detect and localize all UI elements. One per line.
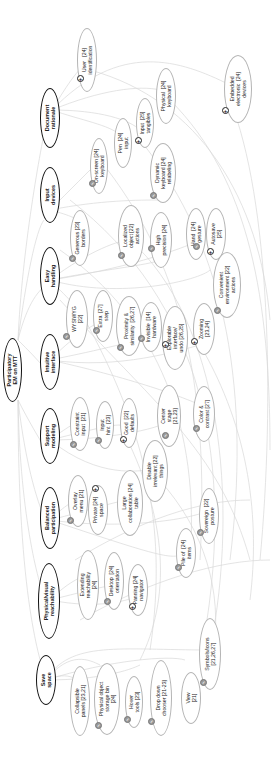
leaf-label: Collapsible panels [23,21]: [74, 685, 86, 718]
leaf-label: Extending reachability [24]: [79, 572, 97, 598]
check-badge-icon: ✓: [124, 716, 131, 723]
plus-badge-icon: +: [120, 436, 127, 443]
leaf-label: Proximity & similarity [26,27]: [123, 307, 135, 346]
category-label: Intuitive interface: [44, 351, 56, 373]
leaf-label: Dynamic keyboard [24] relabeling: [154, 157, 172, 188]
plus-badge-icon: +: [92, 485, 99, 492]
leaf-user-identification[interactable]: User [24] identification: [77, 28, 97, 92]
plus-badge-icon: +: [222, 107, 229, 114]
leaf-high-precision[interactable]: High precision [24]: [150, 212, 172, 268]
leaf-label: Input hint [23]: [99, 415, 111, 435]
leaf-hand-gesture[interactable]: Hand [24] gesture: [186, 208, 206, 260]
leaf-disable-irrelevant-things[interactable]: Disable irrelevant [22] things: [142, 440, 168, 502]
check-badge-icon: ✓: [70, 441, 77, 448]
leaf-embedded-electronic-devices[interactable]: Embedded electronic [24] devices: [224, 55, 252, 123]
leaf-label: Constraint input [21]: [74, 412, 86, 436]
leaf-label: User [24] identification: [81, 46, 93, 75]
check-badge-icon: ✓: [89, 180, 96, 187]
category-label: Balanced participation: [44, 502, 56, 534]
leaf-center-stage[interactable]: Center stage [21,23]: [157, 385, 181, 447]
check-badge-icon: ✓: [148, 245, 155, 252]
category-support-modeling[interactable]: Support modeling: [40, 408, 60, 464]
leaf-label: Private [24] space: [92, 497, 104, 523]
leaf-wysiwyg[interactable]: WYSIWYG [22]: [66, 290, 88, 348]
leaf-label: View [21]: [185, 692, 197, 703]
leaf-label: Hover tools [23]: [128, 691, 140, 712]
category-label: Support modeling: [44, 424, 56, 448]
check-badge-icon: ✓: [93, 327, 100, 334]
check-badge-icon: ✓: [175, 564, 182, 571]
leaf-label: Physical object storage bin [24]: [98, 682, 116, 717]
leaf-label: Overlay menu [21]: [72, 489, 84, 512]
leaf-zooming[interactable]: Zooming [23,24]: [193, 303, 215, 355]
leaf-label: Sovereign [22] posture: [203, 499, 215, 534]
leaf-label: Localized object [22] actions: [122, 224, 140, 248]
plus-badge-icon: +: [77, 75, 84, 82]
leaf-label: Physical [24] keyboard: [160, 81, 172, 112]
leaf-label: Symbols/icons [21,26,27]: [204, 637, 216, 670]
leaf-label: Disable irrelevant [22] things: [146, 455, 164, 486]
category-label: Physical/visual reachability: [43, 582, 55, 621]
leaf-extending-reachability[interactable]: Extending reachability [24]: [77, 550, 99, 620]
leaf-label: Explorable interface/ undo [26,25]: [166, 324, 184, 353]
check-badge-icon: ✓: [138, 335, 145, 342]
root-node[interactable]: Participatory EM on MTT: [3, 338, 22, 402]
check-badge-icon: ✓: [214, 307, 221, 314]
check-badge-icon: ✓: [117, 344, 124, 351]
leaf-label: Center stage [21,23]: [160, 408, 178, 424]
leaf-label: Embedded electronic [24] devices: [229, 72, 247, 106]
category-label: Save space: [40, 672, 52, 687]
leaf-label: Desktop [24] orientation: [108, 566, 120, 597]
leaf-private-space[interactable]: Private [24] space: [88, 485, 108, 535]
check-badge-icon: ✓: [193, 425, 200, 432]
leaf-label: Extra [27] step: [97, 304, 109, 328]
check-badge-icon: ✓: [118, 252, 125, 259]
leaf-collapsible-panels[interactable]: Collapsible panels [23,21]: [70, 666, 90, 736]
root-label: Participatory EM on MTT: [7, 354, 19, 387]
category-label: Easy handling: [44, 265, 56, 287]
leaf-label: Pile of [24] items: [180, 540, 192, 566]
leaf-label: Autosave [25]: [210, 223, 222, 245]
check-badge-icon: ✓: [193, 243, 200, 250]
check-badge-icon: ✓: [95, 722, 102, 729]
plus-badge-icon: +: [191, 338, 198, 345]
leaf-label: Invisible [14] hardware: [145, 312, 157, 342]
check-badge-icon: ✓: [148, 718, 155, 725]
leaf-drop-down-chooser[interactable]: Drop down chooser [21-23]: [150, 660, 172, 736]
leaf-label: WYSIWYG [22]: [71, 306, 83, 332]
leaf-label: Panning [24] navigator: [132, 575, 144, 604]
check-badge-icon: ✓: [162, 432, 169, 439]
category-label: Document rationale: [44, 105, 56, 131]
check-badge-icon: ✓: [197, 529, 204, 536]
leaf-label: Generous [23] borders: [74, 222, 86, 255]
leaf-label: Zooming [23,24]: [198, 319, 210, 339]
category-balanced-participation[interactable]: Balanced participation: [40, 487, 60, 549]
leaf-invisible-hardware[interactable]: Invisible [14] hardware: [140, 302, 162, 352]
leaf-extra-step[interactable]: Extra [27] step: [93, 290, 113, 342]
category-save-space[interactable]: Save space: [36, 655, 56, 705]
leaf-pen-input[interactable]: Pen [24] input: [114, 118, 132, 168]
leaf-view[interactable]: View [21]: [181, 672, 201, 724]
leaf-label: Good [22] defaults: [123, 411, 135, 435]
leaf-label: On-screen [24] keyboard: [93, 149, 105, 183]
check-badge-icon: ✓: [104, 598, 111, 605]
leaf-physical-keyboard[interactable]: Physical [24] keyboard: [156, 68, 176, 124]
check-badge-icon: ✓: [69, 255, 76, 262]
leaf-label: Input [25] tangibles: [139, 111, 151, 134]
leaf-explorable-interface-undo[interactable]: Explorable interface/ undo [26,25]: [162, 306, 188, 370]
leaf-label: Pen [24] input: [117, 133, 129, 154]
category-document-rationale[interactable]: Document rationale: [40, 88, 60, 148]
check-badge-icon: ✓: [200, 679, 207, 686]
leaf-label: Convenient environment [22] actions: [218, 266, 236, 305]
check-badge-icon: ✓: [95, 437, 102, 444]
category-input-devices[interactable]: Input devices: [40, 167, 60, 223]
category-intuitive-interface[interactable]: Intuitive interface: [40, 334, 60, 390]
category-easy-handling[interactable]: Easy handling: [40, 247, 60, 305]
leaf-label: Large collaboration [24] table: [121, 483, 139, 523]
leaf-large-collaboration-table[interactable]: Large collaboration [24] table: [117, 470, 143, 536]
check-badge-icon: ✓: [63, 333, 70, 340]
plus-badge-icon: +: [135, 137, 142, 144]
leaf-label: Drop down chooser [21-23]: [155, 680, 167, 716]
category-physical-visual-reachability[interactable]: Physical/visual reachability: [38, 563, 60, 639]
leaf-color-contrast[interactable]: Color & contrast [27]: [193, 386, 215, 442]
